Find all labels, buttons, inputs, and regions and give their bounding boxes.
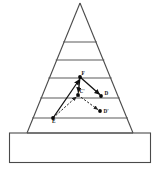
vector-cprime-to-dprime: [78, 95, 98, 110]
label-f: F: [82, 70, 85, 76]
label-e: E: [52, 118, 56, 124]
pyramid-left-slope: [27, 3, 80, 133]
label-cprime: C': [80, 88, 86, 94]
vector-e-to-f: [53, 80, 79, 119]
pyramid-outline-group: [27, 3, 133, 133]
node-dprime: [98, 109, 102, 113]
pyramid-vector-figure: F C' D D' E: [0, 0, 161, 173]
pyramid-base-block: [10, 133, 151, 163]
node-d: [99, 94, 103, 98]
figure-svg: F C' D D' E: [0, 0, 161, 173]
label-d: D: [105, 90, 109, 96]
label-dprime: D': [104, 108, 110, 114]
node-cprime: [76, 93, 80, 97]
base-block-rect: [10, 133, 151, 163]
node-f: [78, 75, 82, 79]
